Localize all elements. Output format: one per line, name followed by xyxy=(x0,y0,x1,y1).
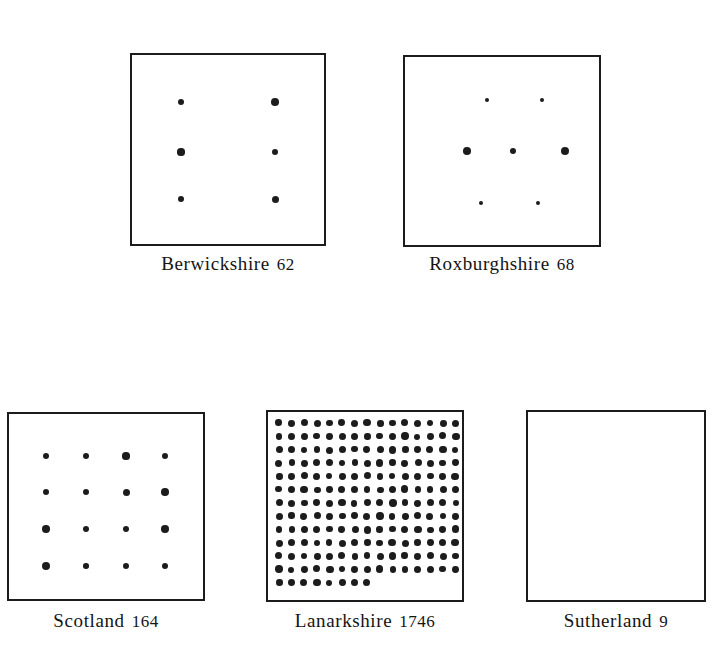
dot xyxy=(389,420,396,427)
dot xyxy=(389,459,396,466)
dot xyxy=(123,563,130,570)
dot xyxy=(326,433,333,440)
dot xyxy=(426,446,433,453)
panel-box-roxburghshire xyxy=(403,55,601,247)
dot xyxy=(301,566,308,573)
dot xyxy=(427,433,434,440)
dot xyxy=(288,446,295,453)
dot xyxy=(275,552,282,559)
dot xyxy=(313,565,320,572)
dot xyxy=(414,566,421,573)
dot xyxy=(313,499,320,506)
dot xyxy=(485,98,490,103)
dot xyxy=(363,513,370,520)
dot xyxy=(510,148,516,154)
dot xyxy=(83,453,90,460)
dot xyxy=(271,98,279,106)
dot xyxy=(414,512,421,519)
dot xyxy=(42,525,49,532)
dot xyxy=(314,553,321,560)
dot xyxy=(339,566,346,573)
dot xyxy=(301,433,308,440)
dot xyxy=(376,540,383,547)
dot xyxy=(452,459,459,466)
dot xyxy=(364,539,371,546)
dot xyxy=(351,579,358,586)
dot xyxy=(363,579,370,586)
panel-box-sutherland xyxy=(526,410,706,602)
dot xyxy=(351,500,358,507)
dot xyxy=(439,432,446,439)
dot xyxy=(377,487,384,494)
dot xyxy=(414,434,421,441)
dot xyxy=(389,552,396,559)
dot xyxy=(288,500,295,507)
dot xyxy=(339,579,346,586)
dot xyxy=(43,453,50,460)
dot xyxy=(162,563,168,569)
dot xyxy=(338,486,345,493)
dot xyxy=(536,201,541,206)
dot xyxy=(439,446,446,453)
dot xyxy=(376,459,383,466)
dot xyxy=(276,446,283,453)
dot xyxy=(122,452,129,459)
dot xyxy=(275,419,282,426)
dot xyxy=(326,500,333,507)
dot xyxy=(427,527,434,534)
dot xyxy=(314,446,321,453)
dot xyxy=(414,539,421,546)
panel-caption-sutherland: Sutherland9 xyxy=(526,610,706,632)
dot xyxy=(414,473,421,480)
dot xyxy=(479,201,483,205)
dot xyxy=(351,539,358,546)
dot xyxy=(351,512,358,519)
dot xyxy=(326,539,333,546)
dot xyxy=(177,148,184,155)
dot xyxy=(364,526,371,533)
dot xyxy=(351,420,358,427)
dot xyxy=(288,567,295,574)
panel-caption-count: 62 xyxy=(277,255,295,274)
panel-caption-name: Lanarkshire xyxy=(295,610,392,631)
dot xyxy=(427,499,434,506)
dot xyxy=(389,446,396,453)
dot xyxy=(314,420,321,427)
dot xyxy=(275,486,282,493)
dot xyxy=(338,552,345,559)
dot xyxy=(389,513,396,520)
dot xyxy=(301,539,308,546)
dot xyxy=(300,486,307,493)
dot xyxy=(414,553,421,560)
dot xyxy=(178,196,185,203)
dot-field-lanarkshire xyxy=(268,412,462,600)
panel-box-berwickshire xyxy=(130,53,326,246)
dot xyxy=(276,513,283,520)
dot xyxy=(301,460,308,467)
dot xyxy=(326,486,333,493)
panel-caption-count: 68 xyxy=(557,255,575,274)
dot xyxy=(352,553,359,560)
dot xyxy=(339,473,346,480)
panel-scotland: Scotland164 xyxy=(7,412,205,644)
dot xyxy=(364,472,371,479)
dot xyxy=(339,446,346,453)
dot xyxy=(338,499,345,506)
dot xyxy=(301,472,308,479)
dot xyxy=(288,512,295,519)
dot xyxy=(272,149,279,156)
dot xyxy=(313,433,320,440)
dot xyxy=(300,513,307,520)
dot xyxy=(402,446,409,453)
dot xyxy=(439,526,446,533)
dot xyxy=(301,553,308,560)
dot xyxy=(178,99,185,106)
dot xyxy=(452,553,459,560)
dot xyxy=(288,473,295,480)
dot xyxy=(326,420,333,427)
dot xyxy=(377,473,384,480)
panel-caption-name: Sutherland xyxy=(564,610,652,631)
dot xyxy=(389,486,396,493)
dot xyxy=(376,565,383,572)
panel-box-lanarkshire xyxy=(266,410,464,602)
